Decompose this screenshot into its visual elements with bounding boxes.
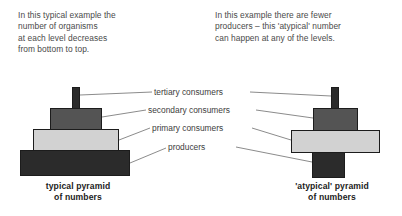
leader-left-tertiary: [80, 92, 152, 95]
label-tertiary-consumers: tertiary consumers: [152, 87, 225, 97]
leader-right-producers: [236, 147, 312, 162]
label-primary-consumers: primary consumers: [150, 123, 225, 133]
diagram-canvas: In this typical example the number of or…: [0, 0, 402, 216]
leader-left-secondary: [102, 110, 146, 117]
label-secondary-consumers: secondary consumers: [146, 105, 232, 115]
leader-right-tertiary: [250, 92, 331, 96]
leader-right-primary: [252, 128, 291, 140]
leader-right-secondary: [256, 110, 313, 118]
leader-left-primary: [119, 128, 150, 140]
label-producers: producers: [166, 142, 207, 152]
leader-left-producers: [130, 148, 166, 163]
